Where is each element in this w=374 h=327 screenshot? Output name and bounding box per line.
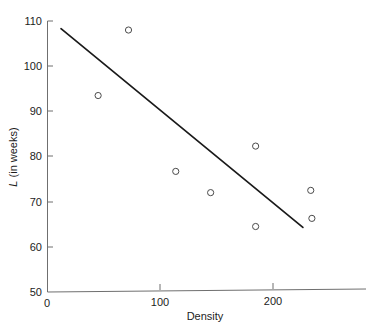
data-point: [308, 187, 314, 193]
data-point: [208, 190, 214, 196]
y-tick-label-80: 80: [30, 150, 42, 162]
data-point: [125, 27, 131, 33]
x-axis-title: Density: [187, 310, 224, 322]
data-point: [95, 92, 101, 98]
y-tick-label-50: 50: [30, 286, 42, 298]
data-points-group: [95, 27, 315, 230]
data-point: [173, 168, 179, 174]
data-point: [253, 223, 259, 229]
y-axis-title-units: (in weeks): [7, 127, 19, 180]
regression-line: [61, 29, 303, 228]
data-point: [253, 143, 259, 149]
y-axis-title: L (in weeks): [7, 127, 19, 186]
scatter-plot: 110 100 90 80 70 60 50 0 100 200 Density…: [0, 0, 374, 327]
y-tick-label-100: 100: [24, 60, 42, 72]
x-axis-ticks: [160, 283, 273, 290]
x-tick-label-100: 100: [151, 296, 169, 308]
y-tick-label-90: 90: [30, 105, 42, 117]
x-axis-line: [48, 289, 367, 292]
y-tick-label-70: 70: [30, 196, 42, 208]
data-point: [309, 215, 315, 221]
x-tick-label-200: 200: [264, 295, 282, 307]
y-tick-label-110: 110: [24, 15, 42, 27]
x-tick-label-0: 0: [44, 297, 50, 309]
svg-text:L (in weeks): L (in weeks): [7, 127, 19, 186]
figure-container: 110 100 90 80 70 60 50 0 100 200 Density…: [0, 0, 374, 327]
y-axis-ticks: [48, 21, 54, 247]
y-tick-label-60: 60: [30, 241, 42, 253]
